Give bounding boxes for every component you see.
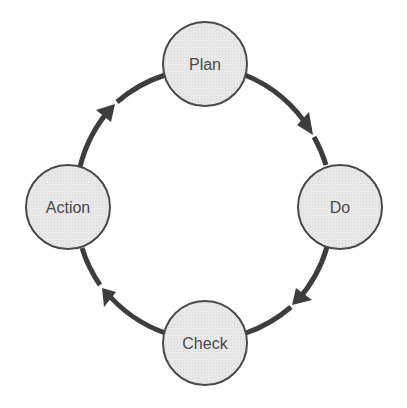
arc-do-to-check-tail bbox=[246, 307, 291, 333]
arc-plan-to-do-tail bbox=[314, 137, 326, 165]
arc-check-to-action bbox=[106, 292, 165, 333]
node-label-check: Check bbox=[182, 335, 228, 352]
node-do: Do bbox=[298, 165, 382, 249]
node-action: Action bbox=[26, 165, 110, 249]
arrowhead-to-check-icon bbox=[292, 288, 312, 305]
node-label-plan: Plan bbox=[189, 56, 221, 73]
arc-check-to-action-tail bbox=[82, 248, 100, 285]
cycle-ring bbox=[80, 75, 327, 333]
node-plan: Plan bbox=[163, 22, 247, 106]
node-label-do: Do bbox=[330, 199, 351, 216]
pdca-cycle-diagram: Plan Do Check Action bbox=[0, 0, 407, 408]
node-label-action: Action bbox=[46, 199, 90, 216]
node-check: Check bbox=[163, 301, 247, 385]
arc-action-to-plan-tail bbox=[117, 75, 165, 102]
